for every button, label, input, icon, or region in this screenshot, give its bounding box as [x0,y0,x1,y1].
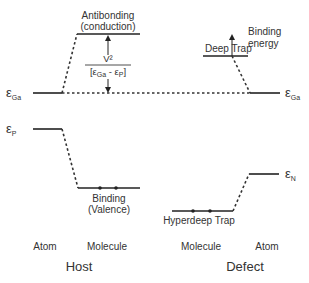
defect-group-label: Defect [226,259,264,274]
hyperdeep-trap-label: Hyperdeep Trap [163,215,235,226]
deep-trap-label: Deep Trap [205,43,252,54]
antibonding-label: Antibonding [82,10,135,21]
host-group-label: Host [66,259,93,274]
defect-eps-ga-label: εGa [285,85,300,101]
defect-eps-n-label: εN [285,166,296,182]
hyperdeep-connector [233,174,249,211]
fraction-denominator: [εGa - εP] [90,66,126,78]
binding-energy-label-line2: energy [248,38,279,49]
defect-molecule-column-label: Molecule [181,241,221,252]
host-eps-ga-label: εGa [6,85,21,101]
valence-label: (Valence) [88,204,130,215]
electron-dot [191,209,195,213]
binding-energy-label-line1: Binding [248,26,281,37]
host-ga-to-antibonding-connector [62,34,77,93]
conduction-label: (conduction) [80,21,135,32]
electron-dot [98,186,102,190]
host-eps-p-label: εP [6,121,17,137]
host-molecule-column-label: Molecule [87,241,127,252]
defect-atom-column-label: Atom [255,241,278,252]
electron-dot [208,209,212,213]
electron-dot [114,186,118,190]
energy-level-diagram: εGa εP Antibonding (conduction) V² [εGa … [0,0,309,283]
deep-trap-connector [232,56,250,93]
binding-label: Binding [92,193,125,204]
host-atom-column-label: Atom [33,241,56,252]
host-p-to-binding-connector [62,129,78,188]
fraction-numerator: V² [103,53,113,64]
